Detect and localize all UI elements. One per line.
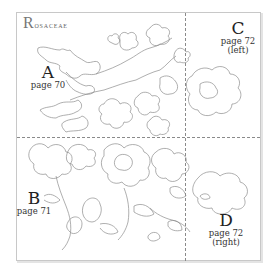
rose-d-big bbox=[193, 172, 248, 214]
leaf-mid-lower bbox=[118, 188, 129, 240]
section-page: page 71 bbox=[16, 207, 52, 216]
rose-right-mid bbox=[152, 148, 189, 181]
rose-b-top bbox=[29, 144, 72, 179]
divider-vertical-dashed bbox=[185, 13, 186, 261]
flower-a2 bbox=[134, 92, 159, 115]
leaf-b2 bbox=[100, 223, 118, 234]
flower-a3 bbox=[147, 116, 170, 135]
leaf-c bbox=[160, 76, 178, 94]
leaf-d1 bbox=[168, 220, 182, 230]
section-letter: A bbox=[30, 64, 66, 81]
rose-mid-big bbox=[101, 144, 150, 187]
section-label-b: B page 71 bbox=[16, 190, 52, 216]
divider-horizontal-dashed bbox=[17, 137, 260, 138]
flower-a1 bbox=[99, 99, 133, 129]
diagram-title: ROSACEAE bbox=[23, 14, 68, 32]
section-page: page 70 bbox=[30, 81, 66, 90]
leaf-d-small bbox=[200, 194, 210, 199]
leaf-mid-lower2 bbox=[134, 204, 154, 216]
rosehip-b bbox=[82, 198, 101, 222]
rosebud-a bbox=[174, 48, 190, 63]
rose-c-petal bbox=[200, 82, 218, 98]
rose-mid-petal bbox=[114, 154, 132, 170]
section-letter: B bbox=[16, 190, 52, 207]
rose-c-big bbox=[186, 67, 241, 116]
leaf-cluster-top bbox=[120, 32, 138, 50]
leaf-mid-a bbox=[40, 100, 82, 118]
leaf-mid-b bbox=[62, 116, 88, 132]
stem-b bbox=[56, 176, 71, 250]
leaf-cluster-top2 bbox=[146, 24, 169, 45]
leaf-d2 bbox=[148, 232, 160, 241]
flower-small-a bbox=[108, 34, 120, 45]
leaf-right-mid bbox=[170, 186, 186, 198]
title-initial: R bbox=[23, 14, 34, 31]
section-letter: D bbox=[206, 212, 246, 229]
section-note: (right) bbox=[206, 238, 246, 247]
bud-b2 bbox=[67, 217, 82, 234]
section-letter: C bbox=[218, 20, 258, 37]
stem-a bbox=[96, 38, 172, 74]
section-label-d: D page 72 (right) bbox=[206, 212, 246, 246]
section-label-a: A page 70 bbox=[30, 64, 66, 90]
section-note: (left) bbox=[218, 46, 258, 55]
title-rest: OSACEAE bbox=[34, 23, 67, 29]
section-label-c: C page 72 (left) bbox=[218, 20, 258, 54]
